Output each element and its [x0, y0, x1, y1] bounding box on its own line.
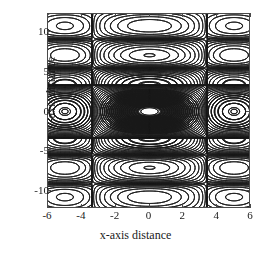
x-tick-mark — [250, 204, 251, 208]
x-tick-label: 4 — [213, 209, 219, 221]
plot-area — [47, 13, 250, 208]
x-tick-mark — [216, 13, 217, 17]
y-tick-mark — [246, 150, 250, 151]
x-tick-label: -6 — [42, 209, 51, 221]
x-tick-label: 0 — [146, 209, 152, 221]
x-tick-mark — [250, 13, 251, 17]
y-tick-mark — [246, 190, 250, 191]
x-tick-mark — [182, 204, 183, 208]
y-tick-mark — [246, 71, 250, 72]
x-tick-mark — [149, 204, 150, 208]
x-tick-mark — [149, 13, 150, 17]
x-tick-mark — [182, 13, 183, 17]
y-tick-mark — [246, 31, 250, 32]
x-tick-label: -2 — [110, 209, 119, 221]
contour-figure: -6-4-20246 1050-5-10 x-axis distance y-a… — [0, 0, 271, 256]
x-tick-mark — [115, 13, 116, 17]
x-tick-label: 6 — [247, 209, 253, 221]
x-axis-label: x-axis distance — [0, 228, 271, 243]
x-tick-label: -4 — [76, 209, 85, 221]
x-tick-label: 2 — [180, 209, 186, 221]
y-tick-mark — [246, 111, 250, 112]
x-tick-mark — [115, 204, 116, 208]
x-tick-mark — [47, 204, 48, 208]
x-tick-mark — [81, 204, 82, 208]
contour-lines — [48, 14, 250, 208]
x-tick-mark — [81, 13, 82, 17]
y-tick-mark — [47, 190, 51, 191]
x-tick-mark — [216, 204, 217, 208]
y-axis-label: y-axis distance — [44, 0, 59, 190]
